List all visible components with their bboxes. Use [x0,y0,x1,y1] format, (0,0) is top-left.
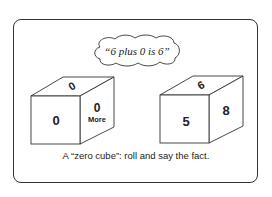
zero-cube-side-more: More [88,115,106,124]
speech-text: “6 plus 0 is 6” [104,45,169,57]
zero-cube-front: 0 [52,113,59,128]
number-cube-front: 5 [182,114,189,129]
illustration: “6 plus 0 is 6” 0 0 0 More 5 6 8 [0,0,272,197]
number-cube-side: 8 [222,103,229,118]
zero-cube-side: 0 [94,101,101,115]
caption: A “zero cube”: roll and say the fact. [0,150,272,161]
